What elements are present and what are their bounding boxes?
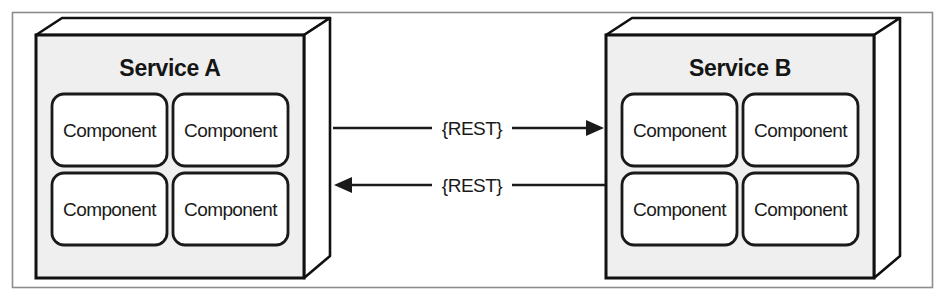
service-b-component-4-label: Component <box>754 199 848 220</box>
service-b-title: Service B <box>689 55 791 81</box>
service-b-component-2[interactable]: Component <box>743 94 858 166</box>
service-b-component-4[interactable]: Component <box>743 173 858 245</box>
service-b-component-3-label: Component <box>633 199 727 220</box>
connection-b-to-a-label: {REST} <box>442 175 503 196</box>
service-b-component-3[interactable]: Component <box>622 173 737 245</box>
service-a-component-4[interactable]: Component <box>173 173 288 245</box>
connection-a-to-b-label: {REST} <box>442 118 503 139</box>
service-a-component-3[interactable]: Component <box>52 173 167 245</box>
service-a-component-1-label: Component <box>63 120 157 141</box>
service-b-component-2-label: Component <box>754 120 848 141</box>
service-b-box[interactable]: Service B Component Component Component … <box>606 18 900 278</box>
service-a-component-3-label: Component <box>63 199 157 220</box>
service-b-component-1-label: Component <box>633 120 727 141</box>
service-a-box[interactable]: Service A Component Component Component … <box>36 18 330 278</box>
service-a-component-2-label: Component <box>184 120 278 141</box>
service-b-side-face <box>874 18 900 278</box>
diagram-canvas: Service A Component Component Component … <box>0 0 946 305</box>
service-a-top-face <box>36 18 330 35</box>
service-b-component-1[interactable]: Component <box>622 94 737 166</box>
service-a-title: Service A <box>119 55 220 81</box>
service-b-top-face <box>606 18 900 35</box>
service-a-component-1[interactable]: Component <box>52 94 167 166</box>
service-a-component-4-label: Component <box>184 199 278 220</box>
service-a-side-face <box>304 18 330 278</box>
service-a-component-2[interactable]: Component <box>173 94 288 166</box>
architecture-diagram: Service A Component Component Component … <box>0 0 946 305</box>
